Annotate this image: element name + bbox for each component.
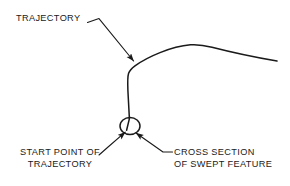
start-point-stub (127, 119, 130, 131)
cross-section-circle (120, 118, 140, 135)
trajectory-leader-line (88, 19, 134, 61)
trajectory-leader-group (88, 19, 134, 61)
diagram-canvas: TRAJECTORY START POINT OF TRAJECTORY CRO… (0, 0, 290, 186)
start-point-label: START POINT OF TRAJECTORY (12, 147, 108, 170)
trajectory-label: TRAJECTORY (16, 13, 80, 25)
cross-section-label-line-2: OF SWEPT FEATURE (174, 159, 272, 171)
trajectory-label-line-1: TRAJECTORY (16, 13, 80, 25)
trajectory-path (128, 45, 277, 119)
cross-section-leader-group (136, 133, 173, 152)
start-point-label-line-2: TRAJECTORY (12, 159, 108, 171)
cross-section-leader-line (136, 133, 173, 152)
trajectory-path-group (128, 45, 277, 119)
cross-section-marker-group (120, 118, 140, 135)
cross-section-label-line-1: CROSS SECTION (174, 147, 272, 159)
cross-section-label: CROSS SECTION OF SWEPT FEATURE (174, 147, 272, 170)
start-point-label-line-1: START POINT OF (12, 147, 108, 159)
